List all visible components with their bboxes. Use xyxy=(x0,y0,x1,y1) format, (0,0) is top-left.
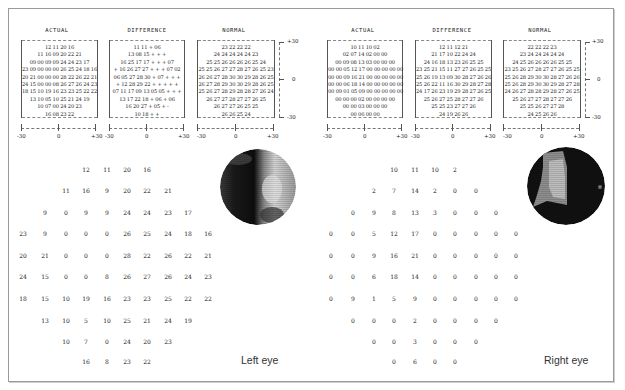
x-tick xyxy=(109,124,110,131)
threshold-value: 0 xyxy=(351,273,355,280)
threshold-value: 0 xyxy=(84,252,88,259)
x-label: 0 xyxy=(57,133,61,139)
threshold-value: 19 xyxy=(82,295,90,302)
left-difference-values: 11 11 + 06 13 08 15 + + + 16 25 17 17 + … xyxy=(110,44,184,118)
threshold-value: 22 xyxy=(143,358,151,365)
threshold-value: 25 xyxy=(143,230,151,237)
threshold-value: 2 xyxy=(372,187,376,194)
threshold-value: 12 xyxy=(390,230,398,237)
threshold-value: 22 xyxy=(184,252,192,259)
x-tick xyxy=(146,124,147,131)
threshold-value: 0 xyxy=(433,358,437,365)
threshold-value: 0 xyxy=(474,338,478,345)
threshold-value: 3 xyxy=(413,338,417,345)
threshold-value: 16 xyxy=(82,187,90,194)
threshold-value: 0 xyxy=(372,338,376,345)
threshold-value: 10 xyxy=(390,166,398,173)
threshold-value: 14 xyxy=(411,187,419,194)
threshold-value: 23 xyxy=(164,338,172,345)
threshold-value: 0 xyxy=(474,209,478,216)
threshold-value: 13 xyxy=(41,317,49,324)
threshold-value: 18 xyxy=(390,273,398,280)
left-actual-values: 12 11 20 16 11 16 09 20 22 21 09 00 09 0… xyxy=(22,44,97,118)
threshold-value: 0 xyxy=(474,317,478,324)
threshold-value: 19 xyxy=(184,317,192,324)
x-label: -30 xyxy=(411,133,420,139)
threshold-value: 1 xyxy=(372,295,376,302)
y-tick xyxy=(279,79,284,80)
x-tick xyxy=(183,124,184,131)
threshold-value: 8 xyxy=(105,273,109,280)
threshold-value: 0 xyxy=(453,252,457,259)
threshold-value: 6 xyxy=(413,358,417,365)
threshold-value: 0 xyxy=(453,295,457,302)
threshold-value: 0 xyxy=(474,187,478,194)
threshold-value: 15 xyxy=(41,273,49,280)
threshold-value: 10 xyxy=(103,317,111,324)
right-difference-title: DIFFERENCE xyxy=(412,27,492,33)
y-tick xyxy=(279,42,284,43)
threshold-value: 9 xyxy=(43,209,47,216)
x-label: -30 xyxy=(503,133,512,139)
threshold-value: 0 xyxy=(372,317,376,324)
x-tick xyxy=(95,124,96,131)
x-tick xyxy=(541,124,542,131)
x-label: +30 xyxy=(91,133,103,139)
threshold-value: 23 xyxy=(19,230,27,237)
threshold-value: 0 xyxy=(105,252,109,259)
threshold-value: 5 xyxy=(84,317,88,324)
threshold-value: 0 xyxy=(329,230,333,237)
threshold-value: 23 xyxy=(164,209,172,216)
left-difference-grid: 11 11 + 06 13 08 15 + + + 16 25 17 17 + … xyxy=(109,40,185,118)
threshold-value: 26 xyxy=(123,273,131,280)
left-eye-label: Left eye xyxy=(241,354,278,366)
threshold-value: 0 xyxy=(474,273,478,280)
threshold-value: 24 xyxy=(164,317,172,324)
threshold-value: 21 xyxy=(143,317,151,324)
right-actual-grid: 10 11 10 02 02 07 14 02 00 00 00 09 08 1… xyxy=(327,40,403,118)
threshold-value: 0 xyxy=(351,252,355,259)
threshold-value: 0 xyxy=(433,252,437,259)
threshold-value: 24 xyxy=(184,273,192,280)
threshold-value: 27 xyxy=(143,273,151,280)
threshold-value: 21 xyxy=(204,252,212,259)
threshold-value: 11 xyxy=(62,187,70,194)
threshold-value: 21 xyxy=(164,187,172,194)
threshold-value: 0 xyxy=(433,230,437,237)
x-tick xyxy=(415,124,416,131)
x-tick xyxy=(503,124,504,131)
threshold-value: 20 xyxy=(19,252,27,259)
x-tick xyxy=(21,124,22,131)
x-label: +30 xyxy=(267,133,279,139)
x-label: 0 xyxy=(145,133,149,139)
threshold-value: 0 xyxy=(494,295,498,302)
right-normal-grid: 22 22 22 23 23 24 24 24 24 24 24 25 26 2… xyxy=(503,40,581,118)
right-actual-title: ACTUAL xyxy=(323,27,403,33)
threshold-value: 0 xyxy=(453,317,457,324)
threshold-value: 0 xyxy=(494,273,498,280)
threshold-value: 0 xyxy=(453,230,457,237)
x-tick xyxy=(579,124,580,131)
x-label: +30 xyxy=(484,133,496,139)
threshold-value: 20 xyxy=(123,187,131,194)
threshold-value: 0 xyxy=(453,358,457,365)
x-label: +30 xyxy=(396,133,408,139)
left-grayscale-icon xyxy=(220,149,296,225)
threshold-value: 10 xyxy=(62,338,70,345)
right-y-label-top: +30 xyxy=(592,38,604,44)
x-tick xyxy=(327,124,328,131)
threshold-value: 24 xyxy=(19,273,27,280)
threshold-value: 22 xyxy=(143,187,151,194)
threshold-value: 0 xyxy=(514,230,518,237)
threshold-value: 3 xyxy=(433,209,437,216)
threshold-value: 17 xyxy=(411,230,419,237)
left-y-label-mid: 0 xyxy=(292,76,296,82)
left-actual-grid: 12 11 20 16 11 16 09 20 22 21 09 00 09 0… xyxy=(21,40,98,118)
threshold-value: 6 xyxy=(372,273,376,280)
x-label: 0 xyxy=(540,133,544,139)
threshold-value: 9 xyxy=(43,230,47,237)
threshold-value: 20 xyxy=(143,338,151,345)
x-tick xyxy=(452,124,453,131)
threshold-value: 24 xyxy=(123,338,131,345)
threshold-value: 0 xyxy=(64,252,68,259)
